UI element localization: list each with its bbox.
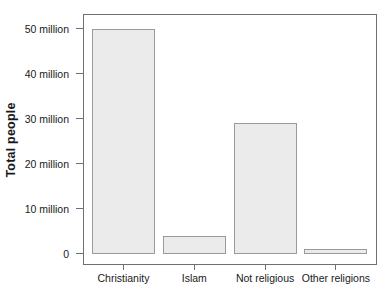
y-tick-mark <box>76 208 83 209</box>
x-tick-mark <box>335 265 336 270</box>
bar-chart-figure: Total people 010 million20 million30 mil… <box>0 0 390 298</box>
y-tick-label: 40 million <box>0 67 69 81</box>
y-tick-label: 50 million <box>0 22 69 36</box>
x-tick-mark <box>265 265 266 270</box>
y-tick-mark <box>76 253 83 254</box>
y-tick-mark <box>76 73 83 74</box>
y-tick-label: 0 <box>0 247 69 261</box>
bar-christianity <box>92 29 155 254</box>
y-tick-mark <box>76 118 83 119</box>
bar-not-religious <box>234 123 297 254</box>
x-tick-mark <box>194 265 195 270</box>
x-category-label: Other religions <box>288 271 384 285</box>
x-tick-mark <box>123 265 124 270</box>
y-tick-label: 20 million <box>0 157 69 171</box>
y-tick-label: 30 million <box>0 112 69 126</box>
y-tick-label: 10 million <box>0 202 69 216</box>
y-tick-mark <box>76 163 83 164</box>
bar-islam <box>163 236 226 254</box>
y-tick-mark <box>76 28 83 29</box>
bar-other-religions <box>304 249 367 254</box>
